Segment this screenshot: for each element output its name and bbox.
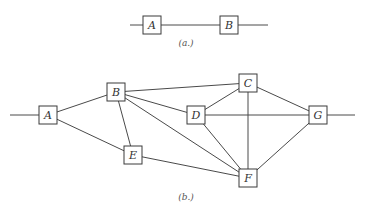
edge-b-b-c [116, 83, 248, 92]
node-b-e: E [124, 146, 142, 164]
node-a-b: B [220, 16, 238, 34]
edge-b-b-d [116, 92, 196, 115]
caption-b: (b.) [178, 192, 194, 202]
network-diagram-canvas: ABABCDEFG (a.) (b.) [0, 0, 365, 210]
node-label: B [224, 19, 233, 32]
edge-b-a-e [48, 115, 133, 155]
node-label: D [191, 109, 201, 122]
edge-b-a-b [48, 92, 116, 115]
edge-b-f-g [248, 115, 318, 178]
node-label: A [43, 109, 52, 122]
node-b-b: B [107, 83, 125, 101]
node-b-c: C [239, 74, 257, 92]
node-label: A [147, 19, 156, 32]
node-b-d: D [187, 106, 205, 124]
node-a-a: A [143, 16, 161, 34]
node-label: G [314, 109, 323, 122]
node-b-f: F [239, 169, 257, 187]
node-b-a: A [39, 106, 57, 124]
node-label: C [244, 77, 253, 90]
node-label: F [243, 172, 252, 185]
caption-a: (a.) [178, 38, 194, 48]
edge-b-c-g [248, 83, 318, 115]
node-label: B [111, 86, 120, 99]
node-b-g: G [309, 106, 327, 124]
node-label: E [128, 149, 137, 162]
